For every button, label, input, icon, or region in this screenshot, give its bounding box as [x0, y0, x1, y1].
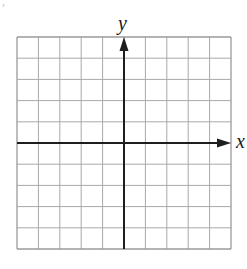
x-axis-label: x — [236, 131, 245, 151]
y-axis-label: y — [118, 13, 127, 33]
grid — [0, 0, 247, 269]
y-axis-arrow-icon — [120, 37, 129, 51]
coordinate-plane: , y x — [0, 0, 247, 269]
x-axis-arrow-icon — [217, 139, 231, 148]
